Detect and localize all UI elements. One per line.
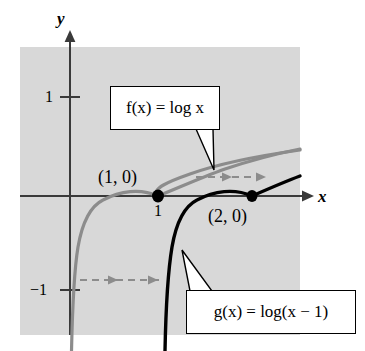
tick-label-x-one: 1 [154,203,162,219]
log-translation-figure: y x 1 −1 1 (1, 0) (2, 0) f(x) = log x g(… [0,0,365,351]
point-marker-1-0 [152,190,164,203]
g-callout-text: g(x) = log(x − 1) [207,302,336,322]
tick-label-y-one: 1 [45,89,53,105]
tick-label-y-negative-one: −1 [30,282,47,298]
point-label-1-0: (1, 0) [98,168,137,186]
point-marker-2-0 [247,190,258,202]
y-axis-label: y [57,10,65,27]
f-callout-text: f(x) = log x [119,98,211,118]
g-callout-box: g(x) = log(x − 1) [186,290,356,334]
x-axis-label: x [318,188,327,205]
point-label-2-0: (2, 0) [208,207,247,225]
f-callout-box: f(x) = log x [110,86,220,130]
